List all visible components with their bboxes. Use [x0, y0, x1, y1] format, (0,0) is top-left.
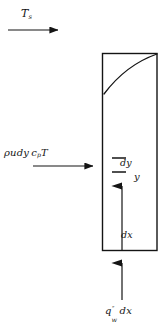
dy-term: dy — [17, 147, 29, 158]
y-axis-label: y — [134, 172, 140, 182]
freestream-temperature-base: T — [21, 7, 29, 20]
heat-flux-superscript: ″ — [112, 306, 115, 313]
control-volume-rectangle — [103, 54, 158, 251]
temperature-symbol: T — [41, 147, 48, 158]
freestream-temperature-subscript: s — [29, 13, 33, 21]
velocity-symbol: u — [10, 147, 17, 158]
wall-heat-flux-label: q″wdx — [105, 306, 132, 316]
dy-label: dy — [120, 158, 132, 168]
enthalpy-influx-label: ρudycpT — [4, 148, 48, 159]
dx-label: dx — [121, 230, 133, 240]
freestream-temperature-label: Ts — [21, 8, 32, 20]
heat-flux-trailing: dx — [120, 305, 132, 316]
boundary-layer-profile — [104, 54, 157, 94]
thermal-boundary-layer-figure: Ts ρudycpT dy y dx q″wdx — [0, 0, 163, 332]
heat-flux-subscript: w — [112, 317, 118, 324]
heat-flux-base: q — [105, 305, 112, 316]
diagram-canvas — [0, 0, 163, 332]
